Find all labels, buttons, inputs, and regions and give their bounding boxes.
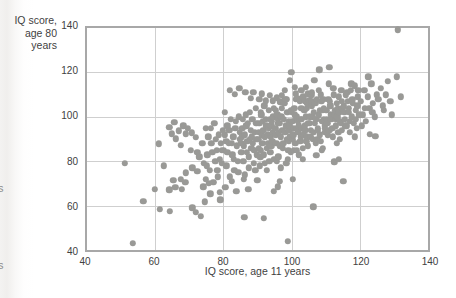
data-point [337, 136, 343, 142]
data-point [260, 151, 266, 157]
data-point [161, 162, 167, 168]
data-point [193, 134, 199, 140]
data-point [130, 240, 136, 246]
data-point [242, 89, 248, 95]
iq-scatter-figure: IQ score, age 80 years 406080100120140 4… [0, 0, 456, 298]
data-point [361, 87, 367, 93]
data-point [233, 188, 239, 194]
data-point [256, 96, 262, 102]
data-point [170, 177, 176, 183]
data-point [156, 140, 162, 146]
data-point [282, 87, 288, 93]
data-point [178, 142, 184, 148]
data-point [207, 191, 213, 197]
data-point [187, 147, 193, 153]
data-point [241, 214, 247, 220]
data-point [240, 158, 246, 164]
data-point [393, 74, 399, 80]
data-point [217, 189, 223, 195]
data-point [378, 85, 384, 91]
data-point [285, 238, 291, 244]
data-point [173, 136, 179, 142]
data-point [235, 169, 241, 175]
data-point [304, 142, 310, 148]
gridline-y-120 [87, 72, 428, 73]
y-tick-label-60: 60 [44, 201, 78, 212]
data-point [172, 184, 178, 190]
data-point [309, 89, 315, 95]
y-tick-label-80: 80 [44, 156, 78, 167]
data-point [166, 124, 172, 130]
data-point [261, 215, 267, 221]
data-point [291, 84, 297, 90]
data-point [368, 80, 374, 86]
data-point [245, 186, 251, 192]
data-point [365, 74, 371, 80]
data-point [291, 105, 297, 111]
data-point [223, 162, 229, 168]
data-point [380, 107, 386, 113]
data-point [229, 178, 235, 184]
data-point [267, 149, 273, 155]
data-point [364, 94, 370, 100]
data-point [242, 171, 248, 177]
x-axis-title: IQ score, age 11 years [85, 265, 430, 277]
data-point [258, 91, 264, 97]
data-point [375, 96, 381, 102]
data-point [385, 78, 391, 84]
data-point [358, 98, 364, 104]
gridline-x-120 [360, 28, 361, 250]
data-point [182, 179, 188, 185]
data-point [222, 109, 228, 115]
data-point [363, 118, 369, 124]
data-point [230, 134, 236, 140]
book-page: s s IQ score, age 80 years 4060801001201… [0, 0, 456, 298]
data-point [245, 154, 251, 160]
data-point [283, 96, 289, 102]
data-point [387, 98, 393, 104]
data-point [276, 178, 282, 184]
data-point [275, 154, 281, 160]
data-point [121, 160, 127, 166]
data-point [351, 134, 357, 140]
data-point [247, 95, 253, 101]
data-point [275, 183, 281, 189]
data-point [383, 91, 389, 97]
data-point [151, 186, 157, 192]
data-point [210, 179, 216, 185]
data-point [398, 94, 404, 100]
y-tick-label-100: 100 [44, 110, 78, 121]
data-point [288, 69, 294, 75]
data-point [197, 213, 203, 219]
data-point [326, 64, 332, 70]
y-tick-label-140: 140 [44, 20, 78, 31]
data-point [157, 206, 163, 212]
data-point [317, 138, 323, 144]
plot-area [85, 26, 430, 252]
data-point [214, 167, 220, 173]
data-point [211, 120, 217, 126]
data-point [313, 152, 319, 158]
data-point [215, 174, 221, 180]
data-point [222, 184, 228, 190]
data-point [201, 199, 207, 205]
data-point [205, 134, 211, 140]
data-point [246, 109, 252, 115]
data-point [250, 89, 256, 95]
data-point [194, 168, 200, 174]
data-point [183, 170, 189, 176]
data-point [207, 167, 213, 173]
data-point [311, 77, 317, 83]
data-point [290, 176, 296, 182]
data-point [179, 186, 185, 192]
data-point [140, 198, 146, 204]
y-tick-label-120: 120 [44, 65, 78, 76]
data-point [394, 26, 400, 32]
data-point [196, 154, 202, 160]
data-point [231, 91, 237, 97]
gridline-y-60 [87, 206, 428, 207]
data-point [264, 167, 270, 173]
data-point [330, 85, 336, 91]
data-point [340, 178, 346, 184]
data-point [171, 119, 177, 125]
